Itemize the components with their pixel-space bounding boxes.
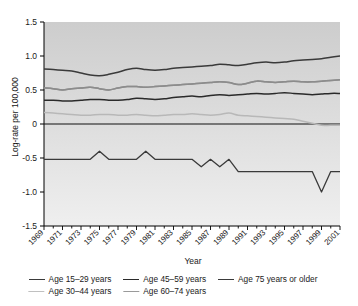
svg-text:1981: 1981 — [137, 228, 156, 247]
legend-label: Age 15–29 years — [49, 274, 112, 284]
legend-item: Age 15–29 years — [29, 274, 112, 284]
legend-swatch — [29, 279, 45, 280]
legend-item: Age 60–74 years — [123, 286, 206, 296]
chart-figure: 1.51.00.50-0.5-1.0-1.5 19691971197319751… — [0, 0, 358, 306]
svg-text:1973: 1973 — [63, 228, 82, 247]
svg-text:1985: 1985 — [174, 228, 193, 247]
legend-swatch — [123, 279, 139, 280]
x-axis-title: Year — [0, 256, 358, 266]
legend-swatch — [29, 291, 45, 292]
legend-item: Age 30–44 years — [29, 286, 112, 296]
svg-text:2001: 2001 — [322, 228, 341, 247]
svg-text:1.5: 1.5 — [25, 17, 37, 27]
svg-text:1.0: 1.0 — [25, 51, 37, 61]
svg-text:0.5: 0.5 — [25, 85, 37, 95]
legend-swatch — [123, 291, 139, 292]
svg-text:1997: 1997 — [285, 228, 304, 247]
x-axis-title-text: Year — [184, 256, 201, 266]
svg-text:1995: 1995 — [267, 228, 286, 247]
legend-label: Age 60–74 years — [143, 286, 206, 296]
svg-text:1977: 1977 — [100, 228, 119, 247]
y-axis-title: Log-rate per 100,000 — [10, 42, 20, 192]
plot-area: 1.51.00.50-0.5-1.0-1.5 19691971197319751… — [0, 0, 358, 262]
legend-item: Age 75 years or older — [218, 274, 317, 284]
legend-label: Age 30–44 years — [49, 286, 112, 296]
svg-text:1993: 1993 — [248, 228, 267, 247]
svg-text:1987: 1987 — [193, 228, 212, 247]
svg-text:-0.5: -0.5 — [22, 153, 37, 163]
svg-text:1983: 1983 — [156, 228, 175, 247]
x-axis-tick-labels: 1969197119731975197719791981198319851987… — [26, 228, 341, 247]
svg-text:-1.5: -1.5 — [22, 221, 37, 231]
svg-text:1971: 1971 — [45, 228, 64, 247]
svg-text:0: 0 — [32, 119, 37, 129]
y-axis-ticks: 1.51.00.50-0.5-1.0-1.5 — [22, 17, 44, 231]
svg-text:1975: 1975 — [82, 228, 101, 247]
legend-item: Age 45–59 years — [123, 274, 206, 284]
legend-row-0: Age 15–29 yearsAge 45–59 yearsAge 75 yea… — [29, 274, 330, 284]
svg-text:-1.0: -1.0 — [22, 187, 37, 197]
svg-text:1979: 1979 — [119, 228, 138, 247]
legend-label: Age 75 years or older — [238, 274, 317, 284]
svg-text:1991: 1991 — [230, 228, 249, 247]
chart-svg: 1.51.00.50-0.5-1.0-1.5 19691971197319751… — [0, 0, 358, 262]
legend-row-1: Age 30–44 yearsAge 60–74 years — [29, 286, 218, 296]
svg-text:1989: 1989 — [211, 228, 230, 247]
svg-text:1999: 1999 — [304, 228, 323, 247]
legend-swatch — [218, 279, 234, 280]
legend-label: Age 45–59 years — [143, 274, 206, 284]
chart-legend: Age 15–29 yearsAge 45–59 yearsAge 75 yea… — [0, 274, 358, 296]
